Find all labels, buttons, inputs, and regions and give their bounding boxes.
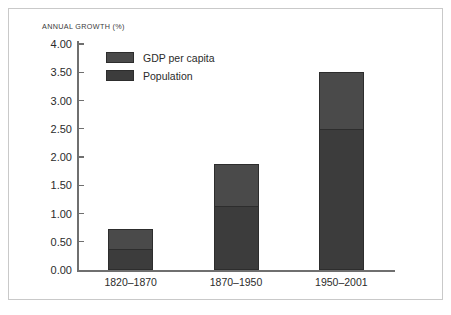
bar-segment-gdp-per-capita <box>108 229 153 249</box>
x-axis-category-label: 1870–1950 <box>210 276 263 288</box>
legend-item: GDP per capita <box>106 50 215 65</box>
bar-stack <box>319 72 364 270</box>
chart-figure: ANNUAL GROWTH (%) 4.003.503.002.502.001.… <box>0 0 451 315</box>
y-axis-tick-label: 4.00 <box>51 38 72 50</box>
y-axis-tick-label: 2.50 <box>51 123 72 135</box>
y-axis-tick-label: 3.00 <box>51 95 72 107</box>
x-axis-category-label: 1820–1870 <box>104 276 157 288</box>
chart-legend: GDP per capitaPopulation <box>106 50 215 86</box>
y-axis-tick-label: 0.00 <box>51 264 72 276</box>
legend-label: GDP per capita <box>143 52 215 64</box>
y-axis-tick-label: 1.00 <box>51 208 72 220</box>
y-axis-tick-label: 2.00 <box>51 151 72 163</box>
x-axis-line <box>77 270 395 272</box>
y-axis-tick-label: 0.50 <box>51 236 72 248</box>
bar-segment-gdp-per-capita <box>214 164 259 207</box>
legend-item: Population <box>106 68 215 83</box>
bar-segment-gdp-per-capita <box>319 72 364 130</box>
bar-stack <box>214 164 259 270</box>
legend-swatch <box>106 70 134 81</box>
y-axis-tick-labels: 4.003.503.002.502.001.501.000.500.00 <box>0 0 72 315</box>
legend-swatch <box>106 52 134 63</box>
bar-segment-population <box>214 206 259 270</box>
y-axis-tick-label: 1.50 <box>51 179 72 191</box>
y-axis-tick-label: 3.50 <box>51 66 72 78</box>
bar-segment-population <box>319 129 364 270</box>
x-axis-category-label: 1950–2001 <box>315 276 368 288</box>
bar-stack <box>108 229 153 270</box>
legend-label: Population <box>143 70 193 82</box>
bar-segment-population <box>108 249 153 270</box>
